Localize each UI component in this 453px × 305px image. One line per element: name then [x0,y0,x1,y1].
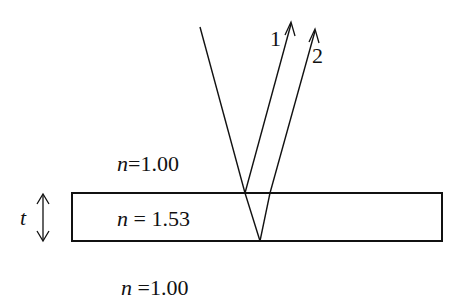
ray-2-label: 2 [312,45,323,67]
index-symbol: n [121,275,132,300]
reflected-ray-2 [270,31,315,193]
refracted-ray-down [245,193,260,241]
refracted-ray-up [260,193,270,241]
incident-ray [200,27,245,193]
index-symbol: n [117,151,128,176]
reflected-ray-1 [245,24,291,193]
ray-1-label: 1 [270,28,281,50]
thin-film-diagram: 1 2 t n=1.00 n = 1.53 n =1.00 [0,0,453,305]
film-index-label: n = 1.53 [117,208,190,230]
index-value: =1.00 [138,275,189,300]
index-symbol: n [117,206,128,231]
medium-above-label: n=1.00 [117,153,179,175]
medium-below-label: n =1.00 [121,277,188,299]
index-value: =1.00 [128,151,179,176]
index-value: = 1.53 [134,206,190,231]
thickness-label: t [20,207,26,229]
diagram-graphics [0,0,453,305]
